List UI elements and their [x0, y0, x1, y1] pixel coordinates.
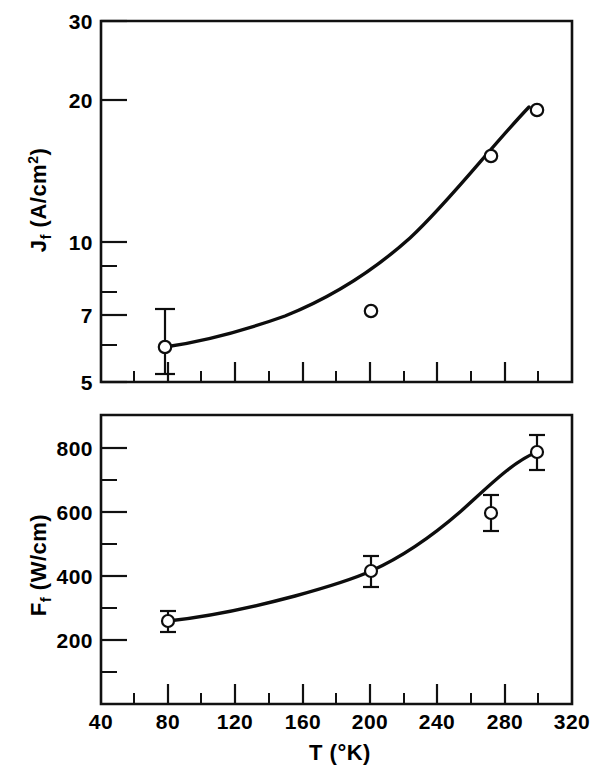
bottom-panel: 800 600 400 200	[26, 415, 590, 765]
top-panel: 30 20 10 7 5	[25, 10, 572, 394]
bottom-panel-datapoint-3	[485, 507, 497, 519]
top-panel-y-major-ticks	[101, 21, 127, 382]
bottom-panel-datapoint-1	[162, 615, 174, 627]
y-tick-label-10: 10	[69, 231, 93, 254]
y-axis-label-unit-pre: (A/cm	[26, 164, 51, 234]
figure-container: 30 20 10 7 5	[0, 0, 602, 770]
y-tick-label-200: 200	[56, 629, 93, 652]
y-axis-label-main: J	[26, 240, 51, 253]
bottom-panel-datapoint-4	[531, 446, 543, 458]
svg-text:Ff (W/cm): Ff (W/cm)	[26, 514, 54, 616]
y-tick-label-800: 800	[56, 437, 93, 460]
top-panel-x-minor-ticks	[134, 371, 538, 382]
y-tick-label-30: 30	[69, 10, 93, 33]
x-tick-label-280: 280	[487, 710, 524, 733]
two-panel-line-chart: 30 20 10 7 5	[0, 0, 602, 770]
top-panel-fit-curve	[165, 107, 529, 347]
y-tick-label-7: 7	[81, 304, 93, 327]
bottom-panel-datapoint-2	[365, 565, 377, 577]
top-panel-datapoint-2	[365, 305, 377, 317]
bottom-panel-x-minor-ticks	[134, 693, 538, 704]
bottom-panel-x-tick-labels: 40 80 120 160 200 240 280 320	[89, 710, 590, 733]
x-tick-label-160: 160	[285, 710, 322, 733]
top-panel-datapoint-3	[485, 150, 497, 162]
bottom-panel-y-axis-label: Ff (W/cm)	[26, 514, 54, 616]
y-tick-label-5: 5	[81, 371, 93, 394]
top-panel-datapoint-4	[531, 104, 543, 116]
y-tick-label-20: 20	[69, 89, 93, 112]
x-tick-label-80: 80	[156, 710, 180, 733]
y-tick-label-600: 600	[56, 501, 93, 524]
x-tick-label-200: 200	[352, 710, 389, 733]
top-panel-frame	[101, 21, 572, 382]
top-panel-y-minor-ticks	[101, 266, 117, 345]
x-tick-label-120: 120	[217, 710, 254, 733]
bottom-panel-frame	[101, 415, 572, 704]
top-panel-y-axis-label: Jf (A/cm2)	[25, 148, 54, 253]
x-tick-label-320: 320	[554, 710, 591, 733]
y-axis-label-unit-post: )	[26, 148, 51, 156]
y-axis-label-unit-sup: 2	[25, 156, 41, 164]
x-tick-label-240: 240	[419, 710, 456, 733]
top-panel-y-tick-labels: 30 20 10 7 5	[69, 10, 93, 394]
top-panel-datapoint-1	[159, 341, 171, 353]
svg-text:Jf (A/cm2): Jf (A/cm2)	[25, 148, 54, 253]
x-axis-label: T (°K)	[309, 740, 371, 765]
bottom-panel-y-tick-labels: 800 600 400 200	[56, 437, 93, 652]
bottom-panel-fit-curve	[168, 452, 537, 621]
y-tick-label-400: 400	[56, 565, 93, 588]
y-axis-label-main-bottom: F	[26, 602, 51, 616]
y-axis-label-unit-bottom: (W/cm)	[26, 514, 51, 597]
x-tick-label-40: 40	[89, 710, 113, 733]
